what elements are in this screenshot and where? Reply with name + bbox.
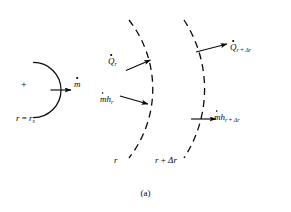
- source-radius-label: r = rs: [16, 114, 35, 125]
- overdot-icon: [76, 77, 78, 79]
- inner-enthalpy-flux-arrow: [120, 96, 148, 104]
- overdot-icon: [102, 92, 104, 94]
- mass-flow-label: m: [74, 80, 81, 89]
- outer-heat-flux-label: Qr + Δr: [230, 43, 251, 54]
- outer-control-surface-dashed-arc: [184, 20, 205, 158]
- inner-heat-flux-label: Qr: [108, 57, 117, 68]
- figure-container: + m r = rs Qr mhr Qr + Δr mhr + Δr r r +…: [0, 0, 291, 212]
- inner-radius-label: r: [114, 156, 118, 165]
- source-center-marker: +: [21, 80, 27, 90]
- figure-drawing: [0, 0, 291, 212]
- heat-symbol: Q: [230, 43, 237, 52]
- overdot-icon: [110, 54, 112, 56]
- outer-radius-label: r + Δr: [155, 156, 177, 165]
- inner-enthalpy-flux-label: mhr: [100, 95, 113, 106]
- enthalpy-symbol: mh: [100, 95, 111, 104]
- inner-control-surface-dashed-arc: [129, 20, 153, 158]
- heat-symbol: Q: [108, 57, 115, 66]
- outer-heat-flux-arrow: [196, 44, 227, 52]
- figure-caption: (a): [0, 188, 291, 198]
- inner-heat-flux-arrow: [126, 60, 151, 71]
- mass-flow-symbol: m: [74, 80, 81, 89]
- outer-enthalpy-flux-label: mhr + Δr: [214, 113, 239, 124]
- overdot-icon: [232, 40, 234, 42]
- enthalpy-symbol: mh: [214, 113, 225, 122]
- overdot-icon: [216, 110, 218, 112]
